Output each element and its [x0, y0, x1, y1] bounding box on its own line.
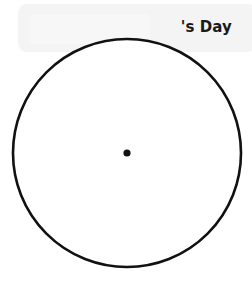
- circle-figure-svg: [0, 0, 252, 281]
- circle-center-point: [123, 149, 130, 156]
- screenshot-canvas: 's Day: [0, 0, 252, 281]
- circle-figure: [0, 0, 252, 281]
